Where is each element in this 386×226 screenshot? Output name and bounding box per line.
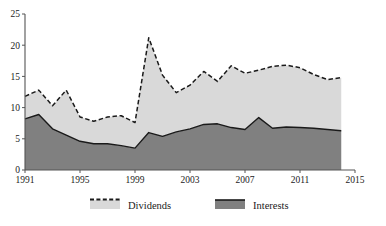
y-axis-ticks: 0510152025 xyxy=(11,9,26,175)
x-axis-ticks: 1991199519992003200720112015 xyxy=(16,170,365,185)
x-tick-label: 1999 xyxy=(126,175,145,185)
area-chart: 0510152025 1991199519992003200720112015 … xyxy=(0,0,386,226)
y-tick-label: 5 xyxy=(15,134,20,144)
legend-item-dividends[interactable]: Dividends xyxy=(90,200,171,211)
y-tick-label: 0 xyxy=(15,165,20,175)
x-tick-label: 2007 xyxy=(236,175,255,185)
x-tick-label: 2003 xyxy=(181,175,200,185)
y-tick-label: 25 xyxy=(11,9,21,19)
y-tick-label: 20 xyxy=(11,41,21,51)
legend-item-interests[interactable]: Interests xyxy=(215,200,289,211)
y-tick-label: 10 xyxy=(11,103,21,113)
legend-swatch xyxy=(215,200,245,209)
x-tick-label: 2015 xyxy=(346,175,365,185)
chart-container: 0510152025 1991199519992003200720112015 … xyxy=(0,0,386,226)
legend-label: Dividends xyxy=(128,200,171,211)
legend-label: Interests xyxy=(253,200,289,211)
chart-legend: DividendsInterests xyxy=(90,200,289,211)
x-tick-label: 1995 xyxy=(71,175,90,185)
x-tick-label: 2011 xyxy=(291,175,310,185)
y-tick-label: 15 xyxy=(11,72,21,82)
x-tick-label: 1991 xyxy=(16,175,35,185)
legend-swatch xyxy=(90,200,120,209)
